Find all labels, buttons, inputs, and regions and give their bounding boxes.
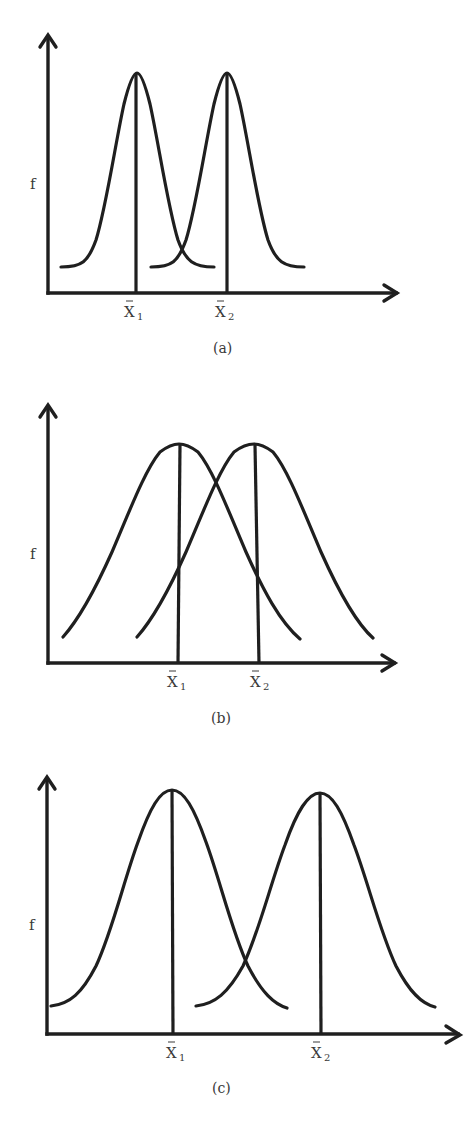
svg-text:X: X [250,673,261,691]
distribution-curve-2 [196,793,435,1007]
y-axis-label: f [30,545,37,563]
panel-caption: (c) [212,1080,231,1096]
svg-text:X: X [167,673,178,691]
panel-a: f X 1 X 2 (a) [30,35,397,356]
mean-label-1: X 1 [166,1042,185,1063]
svg-text:2: 2 [263,681,269,692]
panel-caption: (a) [213,340,232,356]
distribution-curve-1 [63,444,300,639]
svg-text:X: X [124,303,135,321]
panel-caption: (b) [211,710,231,726]
panel-b: f X 1 X 2 (b) [30,405,395,726]
svg-text:2: 2 [228,311,234,322]
mean-label-2: X 2 [311,1042,330,1063]
svg-text:X: X [166,1044,177,1062]
svg-text:1: 1 [137,311,143,322]
svg-text:X: X [215,303,226,321]
y-axis-label: f [30,175,37,193]
mean-line-2 [320,793,321,1034]
mean-label-1: X 1 [124,301,143,322]
y-axis-label: f [29,916,36,934]
mean-line-1 [172,790,173,1034]
svg-text:1: 1 [180,681,186,692]
svg-text:X: X [311,1044,322,1062]
svg-text:2: 2 [324,1052,330,1063]
mean-line-2 [255,445,259,663]
mean-line-1 [178,445,180,663]
svg-text:1: 1 [179,1052,185,1063]
distribution-curve-1 [51,790,287,1008]
mean-label-1: X 1 [167,671,186,692]
mean-label-2: X 2 [250,671,269,692]
mean-label-2: X 2 [215,301,234,322]
figure-canvas: f X 1 X 2 (a) f X 1 X [0,0,474,1136]
panel-c: f X 1 X 2 (c) [29,777,460,1096]
